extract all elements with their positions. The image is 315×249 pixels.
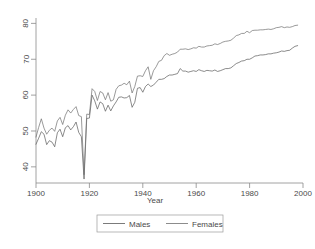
x-tick-label: 1960 — [187, 189, 205, 198]
x-tick-label: 1980 — [241, 189, 259, 198]
y-tick-label: 80 — [22, 18, 31, 27]
chart-legend: MalesFemales — [97, 215, 223, 232]
y-tick-label: 40 — [22, 162, 31, 171]
chart-figure: 4050607080 190019201940196019802000 Year… — [0, 0, 315, 249]
legend-label-females: Females — [192, 220, 223, 229]
x-tick-label: 1920 — [81, 189, 99, 198]
y-tick-label: 60 — [22, 90, 31, 99]
x-axis-title: Year — [147, 196, 164, 205]
y-tick-label: 70 — [22, 54, 31, 63]
y-tick-label: 50 — [22, 126, 31, 135]
line-chart: 4050607080 190019201940196019802000 Year… — [0, 0, 315, 249]
legend-label-males: Males — [129, 220, 150, 229]
chart-background — [0, 0, 315, 249]
x-tick-label: 2000 — [294, 189, 312, 198]
x-tick-label: 1900 — [27, 189, 45, 198]
